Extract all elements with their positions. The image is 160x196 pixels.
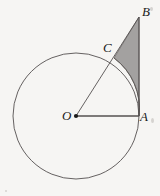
figure-canvas [0, 0, 160, 196]
vertex-label-b: B [142, 5, 150, 18]
geometry-figure: O A B C [0, 0, 160, 196]
vertex-label-c: C [103, 41, 112, 54]
center-dot-o [74, 114, 78, 118]
scan-speck [5, 190, 7, 192]
scan-speck [151, 118, 154, 123]
vertex-label-a: A [140, 110, 148, 123]
shaded-region [114, 17, 139, 116]
vertex-label-o: O [62, 109, 71, 122]
scan-speck [150, 7, 153, 11]
